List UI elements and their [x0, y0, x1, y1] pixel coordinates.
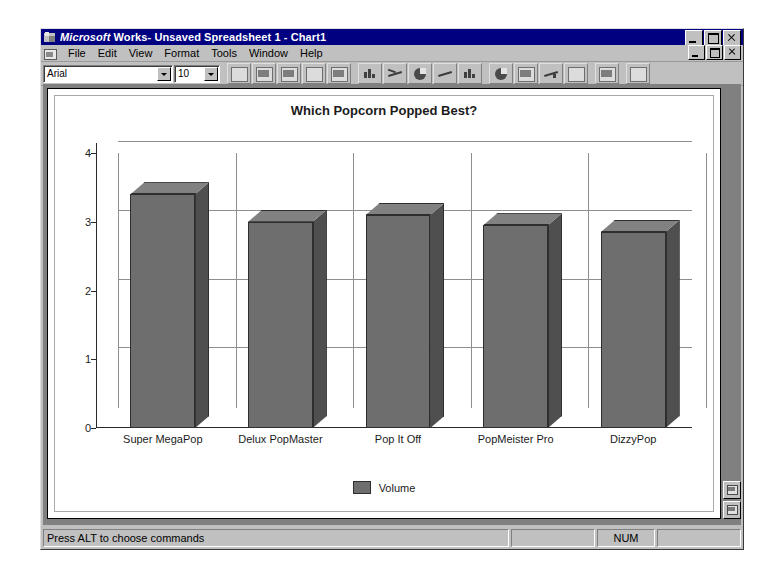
chart-window[interactable]: Which Popcorn Popped Best? 01234 Super M…: [47, 88, 721, 519]
bar-side-face: [548, 213, 562, 428]
close-button[interactable]: [723, 30, 741, 46]
window-controls: [685, 30, 741, 46]
copy-button[interactable]: [327, 63, 351, 84]
chevron-down-icon[interactable]: [157, 67, 171, 81]
chevron-down-icon[interactable]: [204, 67, 218, 81]
y-axis-tick-mark: [91, 291, 96, 292]
document-close-button[interactable]: [724, 45, 741, 60]
minimize-button[interactable]: [685, 30, 703, 46]
font-name-combo[interactable]: Arial: [43, 65, 173, 83]
bar-side-face: [313, 210, 327, 428]
area-chart-icon: [438, 71, 452, 76]
gridline: [118, 141, 692, 142]
category-gridline: [353, 153, 354, 408]
help-pointer-icon: [630, 67, 647, 82]
window-title-rest: Works- Unsaved Spreadsheet 1 - Chart1: [114, 31, 327, 43]
application-window: Microsoft Works- Unsaved Spreadsheet 1 -…: [40, 28, 744, 550]
plot-area[interactable]: 01234 Super MegaPopDelux PopMasterPop It…: [96, 143, 692, 446]
document-controls: [688, 45, 741, 60]
chart-title[interactable]: Which Popcorn Popped Best?: [48, 103, 720, 118]
bar-front-face: [483, 225, 548, 428]
help-mode-button[interactable]: [626, 63, 650, 84]
new-document-icon: [231, 67, 248, 82]
category-gridline: [588, 153, 589, 408]
x-axis-label: PopMeister Pro: [478, 433, 554, 445]
stacked-chart-button[interactable]: [458, 63, 482, 84]
menu-item-window[interactable]: Window: [243, 47, 294, 59]
menu-item-tools[interactable]: Tools: [205, 47, 243, 59]
new-document-button[interactable]: [227, 63, 251, 84]
bar-front-face: [130, 194, 195, 428]
menu-item-edit[interactable]: Edit: [92, 47, 123, 59]
bar-front-face: [601, 232, 666, 428]
menu-item-view[interactable]: View: [123, 47, 159, 59]
font-name-value: Arial: [44, 68, 67, 79]
bar-front-face: [248, 222, 313, 428]
bar-side-face: [430, 203, 444, 428]
spreadsheet-view-button[interactable]: [723, 501, 741, 519]
legend-swatch-volume: [353, 481, 371, 494]
bar-column[interactable]: [483, 225, 548, 428]
menu-bar: File Edit View Format Tools Window Help: [41, 45, 743, 62]
title-bar: Microsoft Works- Unsaved Spreadsheet 1 -…: [41, 29, 743, 45]
print-preview-button[interactable]: [302, 63, 326, 84]
window-title-brand: Microsoft: [60, 31, 110, 43]
maximize-button[interactable]: [704, 30, 722, 46]
scatter-chart-icon: [495, 68, 507, 80]
menu-item-file[interactable]: File: [62, 47, 92, 59]
pie-chart-button[interactable]: [408, 63, 432, 84]
works-logo-icon[interactable]: [43, 31, 57, 44]
toolbar: Arial 10: [41, 62, 743, 86]
mixed-chart-button[interactable]: [564, 63, 588, 84]
menu-item-format[interactable]: Format: [158, 47, 205, 59]
menu-item-help[interactable]: Help: [294, 47, 329, 59]
bar-side-face: [195, 182, 209, 428]
x-axis-label: Super MegaPop: [123, 433, 203, 445]
bar-side-face: [666, 220, 680, 428]
chart-3d-button[interactable]: [595, 63, 619, 84]
font-size-value: 10: [175, 68, 189, 79]
print-preview-icon: [306, 67, 323, 82]
font-size-combo[interactable]: 10: [174, 65, 220, 83]
bar-chart-button[interactable]: [358, 63, 382, 84]
pie-chart-icon: [414, 68, 426, 80]
category-gridline: [236, 153, 237, 408]
y-axis-tick-mark: [91, 359, 96, 360]
x-axis-label: DizzyPop: [610, 433, 656, 445]
status-message: Press ALT to choose commands: [43, 529, 509, 547]
category-gridline: [471, 153, 472, 408]
print-button[interactable]: [277, 63, 301, 84]
chart-view-button[interactable]: [723, 481, 741, 499]
area-chart-button[interactable]: [433, 63, 457, 84]
bar-column[interactable]: [366, 215, 431, 428]
document-minimize-button[interactable]: [688, 45, 705, 60]
category-gridline: [706, 153, 707, 408]
status-bar: Press ALT to choose commands NUM: [43, 529, 741, 547]
y-axis-tick-mark: [91, 222, 96, 223]
stacked-bar-icon: [464, 72, 467, 78]
mixed-chart-icon: [568, 67, 585, 82]
bar-column[interactable]: [130, 194, 195, 428]
bar-column[interactable]: [248, 222, 313, 428]
category-gridline: [118, 153, 119, 408]
x-axis-label: Pop It Off: [375, 433, 421, 445]
y-axis-tick-mark: [91, 428, 96, 429]
document-control-icon[interactable]: [43, 47, 58, 60]
y-axis: [96, 143, 97, 428]
document-restore-button[interactable]: [706, 45, 723, 60]
bar-column[interactable]: [601, 232, 666, 428]
combo-chart-button[interactable]: [539, 63, 563, 84]
view-switch-buttons: [723, 481, 739, 519]
save-button[interactable]: [252, 63, 276, 84]
window-title: Microsoft Works- Unsaved Spreadsheet 1 -…: [60, 31, 326, 43]
bar-front-face: [366, 215, 431, 428]
line-chart-button[interactable]: [383, 63, 407, 84]
workspace: Which Popcorn Popped Best? 01234 Super M…: [43, 84, 741, 525]
y-axis-tick-mark: [91, 153, 96, 154]
radar-chart-button[interactable]: [514, 63, 538, 84]
x-axis-label: Delux PopMaster: [238, 433, 322, 445]
bar-chart-icon: [364, 72, 367, 78]
chart-legend[interactable]: Volume: [48, 481, 720, 494]
legend-label-volume: Volume: [379, 482, 416, 494]
xy-chart-button[interactable]: [489, 63, 513, 84]
